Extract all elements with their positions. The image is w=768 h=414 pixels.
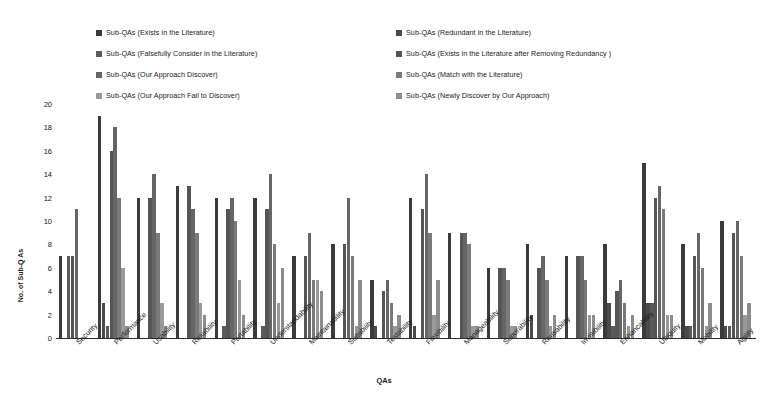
bar (611, 326, 614, 338)
legend-item-7: Sub-QAs (Newly Discover by Our Approach) (396, 91, 686, 100)
bar-group (487, 104, 522, 338)
bar-group (448, 104, 483, 338)
legend-swatch-0 (96, 30, 102, 36)
legend-item-1: Sub-QAs (Redundant in the Literature) (396, 28, 686, 37)
bar (487, 268, 490, 338)
bar (467, 244, 470, 338)
bar (425, 174, 428, 338)
bar (75, 209, 78, 338)
y-tick-18: 18 (28, 123, 52, 132)
bar (607, 303, 610, 338)
y-tick-8: 8 (28, 240, 52, 249)
bar (347, 198, 350, 338)
bar-group (59, 104, 94, 338)
legend-item-4: Sub-QAs (Our Approach Discover) (96, 70, 396, 79)
bar (701, 268, 704, 338)
legend-label-1: Sub-QAs (Redundant in the Literature) (406, 28, 531, 37)
legend-swatch-3 (396, 51, 402, 57)
bar (187, 186, 190, 338)
bar (234, 221, 237, 338)
bar (102, 303, 105, 338)
bar-chart: No. of Sub-Q As 20181614121086420 Securi… (0, 104, 768, 414)
bar (413, 326, 416, 338)
bar (689, 326, 692, 338)
y-tick-0: 0 (28, 334, 52, 343)
bar-group (409, 104, 444, 338)
bar-group (642, 104, 677, 338)
bar (386, 280, 389, 339)
bar (576, 256, 579, 338)
bar (113, 127, 116, 338)
bar-group (370, 104, 405, 338)
bar (67, 256, 70, 338)
y-tick-14: 14 (28, 170, 52, 179)
bar-group (681, 104, 716, 338)
y-tick-2: 2 (28, 310, 52, 319)
bar (273, 244, 276, 338)
legend-label-4: Sub-QAs (Our Approach Discover) (106, 70, 218, 79)
legend-item-5: Sub-QAs (Match with the Literature) (396, 70, 686, 79)
y-tick-16: 16 (28, 146, 52, 155)
bar (724, 326, 727, 338)
bar (502, 268, 505, 338)
bar (693, 256, 696, 338)
bar (650, 303, 653, 338)
bar (545, 280, 548, 339)
bar (106, 326, 109, 338)
bar-group (526, 104, 561, 338)
bar (541, 256, 544, 338)
bar (720, 221, 723, 338)
bar (460, 233, 463, 338)
bar (71, 256, 74, 338)
bar (253, 198, 256, 338)
bar-group (98, 104, 133, 338)
bar (463, 233, 466, 338)
legend-item-3: Sub-QAs (Exists in the Literature after … (396, 49, 686, 58)
bar (98, 116, 101, 338)
bar (374, 326, 377, 338)
bar (176, 186, 179, 338)
bar (370, 280, 373, 339)
legend-label-6: Sub-QAs (Our Approach Fail to Discover) (106, 91, 240, 100)
plot-area (56, 104, 756, 339)
bar (662, 209, 665, 338)
bar-group (565, 104, 600, 338)
y-tick-4: 4 (28, 287, 52, 296)
legend-label-2: Sub-QAs (Falsefully Consider in the Lite… (106, 49, 257, 58)
bar (421, 209, 424, 338)
bar-group (253, 104, 288, 338)
legend-label-5: Sub-QAs (Match with the Literature) (406, 70, 522, 79)
bar (615, 291, 618, 338)
x-axis-title: QAs (0, 376, 768, 385)
bar (498, 268, 501, 338)
bar (117, 198, 120, 338)
bar (222, 326, 225, 338)
bar (215, 198, 218, 338)
bar (584, 280, 587, 339)
legend-item-6: Sub-QAs (Our Approach Fail to Discover) (96, 91, 396, 100)
bar (226, 209, 229, 338)
legend-label-7: Sub-QAs (Newly Discover by Our Approach) (406, 91, 549, 100)
bar (312, 280, 315, 339)
bar (191, 209, 194, 338)
bar (59, 256, 62, 338)
y-tick-12: 12 (28, 193, 52, 202)
bar (658, 186, 661, 338)
bar (619, 280, 622, 339)
bar-group (176, 104, 211, 338)
bar (728, 326, 731, 338)
y-tick-10: 10 (28, 217, 52, 226)
y-tick-20: 20 (28, 100, 52, 109)
bar (382, 291, 385, 338)
bar-group (331, 104, 366, 338)
legend-item-2: Sub-QAs (Falsefully Consider in the Lite… (96, 49, 396, 58)
bar (269, 174, 272, 338)
y-tick-6: 6 (28, 263, 52, 272)
bar (230, 198, 233, 338)
legend-item-0: Sub-QAs (Exists in the Literature) (96, 28, 396, 37)
bar (265, 209, 268, 338)
bar (580, 256, 583, 338)
legend-swatch-6 (96, 93, 102, 99)
bar (685, 326, 688, 338)
bar (506, 280, 509, 339)
